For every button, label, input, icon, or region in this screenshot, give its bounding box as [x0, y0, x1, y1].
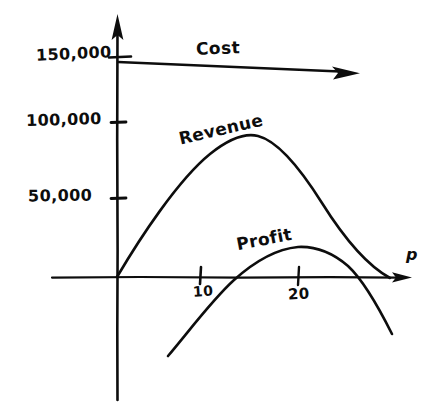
- y-axis-label-100000: 100,000: [26, 109, 102, 130]
- x-axis-label-10: 10: [192, 282, 213, 299]
- y-tick-150000: [109, 57, 131, 58]
- y-tick-100000: [111, 122, 126, 123]
- y-axis-label-50000: 50,000: [28, 185, 92, 205]
- cost-curve: [118, 62, 340, 72]
- cost-arrowhead: [332, 67, 360, 80]
- x-tick-10: [200, 267, 201, 284]
- profit-curve: [168, 247, 392, 356]
- x-axis-line: [52, 277, 398, 278]
- x-axis-name-label: p: [406, 245, 418, 264]
- x-tick-20: [298, 267, 299, 285]
- y-axis-label-150000: 150,000: [36, 42, 112, 64]
- y-tick-50000: [111, 198, 126, 199]
- revenue-curve: [117, 135, 390, 278]
- x-axis-label-20: 20: [288, 284, 311, 303]
- cost-curve-label: Cost: [196, 37, 241, 59]
- hand-drawn-chart: 150,000 100,000 50,000 10 20 Cost Revenu…: [0, 0, 440, 420]
